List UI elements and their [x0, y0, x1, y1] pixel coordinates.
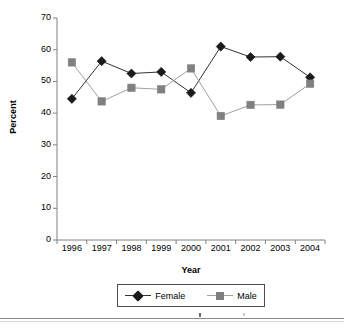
data-point-female-1998	[127, 69, 136, 78]
data-point-female-1996	[67, 94, 76, 103]
y-axis-tick-label: 70	[28, 13, 51, 22]
data-point-female-2000	[186, 88, 195, 97]
legend-item-male: Male	[207, 291, 257, 301]
legend-item-female: Female	[125, 291, 185, 301]
y-axis-tick-label: 60	[28, 45, 51, 54]
line-chart-figure: 010203040506070 199619971998199920002001…	[0, 0, 344, 330]
legend-marker-female-icon	[125, 291, 151, 301]
data-point-male-2000	[187, 65, 194, 72]
page-divider-rule	[0, 318, 344, 319]
legend-label-male: Male	[237, 291, 257, 301]
data-point-male-1996	[68, 59, 75, 66]
x-axis-tick-label: 2004	[293, 244, 327, 253]
page-divider-rule-secondary	[0, 321, 344, 322]
y-axis-tick-label: 0	[28, 235, 51, 244]
y-axis-title: Percent	[8, 87, 18, 147]
y-axis-tick-label: 20	[28, 172, 51, 181]
page-artifact-mark-secondary	[243, 313, 245, 316]
data-point-female-2002	[246, 52, 255, 61]
series-lines	[72, 47, 310, 116]
data-point-male-2001	[217, 112, 224, 119]
data-point-female-2003	[276, 52, 285, 61]
series-markers	[67, 42, 314, 120]
plot-area	[0, 0, 344, 330]
x-axis-title: Year	[57, 265, 325, 275]
data-point-male-2002	[247, 101, 254, 108]
legend-marker-male-icon	[207, 291, 233, 301]
data-point-female-1997	[97, 57, 106, 66]
page-artifact-mark	[199, 313, 201, 317]
data-point-male-2004	[306, 80, 313, 87]
y-axis-ticks	[53, 18, 57, 240]
legend-label-female: Female	[155, 291, 185, 301]
data-point-male-1999	[158, 86, 165, 93]
y-axis-tick-label: 40	[28, 108, 51, 117]
y-axis-tick-label: 30	[28, 140, 51, 149]
y-axis-tick-label: 50	[28, 76, 51, 85]
chart-legend: Female Male	[117, 284, 265, 307]
data-point-female-1999	[157, 67, 166, 76]
y-axis-tick-label: 10	[28, 203, 51, 212]
data-point-male-1998	[128, 84, 135, 91]
data-point-male-2003	[277, 101, 284, 108]
data-point-female-2001	[216, 42, 225, 51]
data-point-male-1997	[98, 98, 105, 105]
